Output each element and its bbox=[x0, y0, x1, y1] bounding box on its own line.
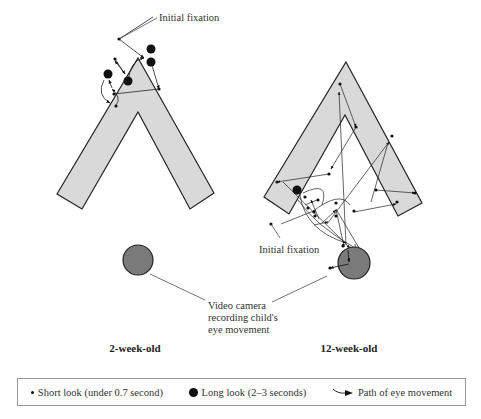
camera-label-line-1: Video camera bbox=[208, 300, 266, 311]
eye-movement-diagram: Initial fixation 2-week-old bbox=[0, 0, 481, 419]
short-look-dot-icon bbox=[31, 391, 34, 394]
camera-label-line-2: recording child's bbox=[208, 312, 278, 323]
caption-left: 2-week-old bbox=[109, 342, 160, 354]
legend-path-label: Path of eye movement bbox=[358, 387, 452, 398]
initial-fixation-leader-left bbox=[119, 18, 157, 39]
initial-fixation-label-right: Initial fixation bbox=[259, 244, 320, 255]
legend-short-look-label: Short look (under 0.7 second) bbox=[38, 387, 163, 398]
legend-long-look-label: Long look (2–3 seconds) bbox=[202, 387, 307, 398]
legend-short-look: Short look (under 0.7 second) bbox=[31, 387, 163, 398]
path-arrow-icon bbox=[332, 387, 354, 397]
long-look-dot-icon bbox=[189, 388, 198, 397]
camera-right bbox=[338, 247, 370, 279]
chevron-shape-right bbox=[264, 62, 422, 216]
camera-label-group: Video camera recording child's eye movem… bbox=[150, 274, 327, 335]
camera-label-line-3: eye movement bbox=[208, 324, 270, 335]
chevron-shape-left bbox=[57, 58, 214, 209]
legend-long-look: Long look (2–3 seconds) bbox=[189, 387, 307, 398]
legend: Short look (under 0.7 second) Long look … bbox=[17, 378, 466, 406]
camera-left bbox=[123, 245, 153, 275]
caption-right: 12-week-old bbox=[321, 342, 378, 354]
initial-fixation-label-left: Initial fixation bbox=[159, 12, 220, 23]
initial-fixation-leader-right bbox=[271, 224, 280, 238]
legend-path: Path of eye movement bbox=[332, 387, 452, 398]
left-panel: Initial fixation 2-week-old bbox=[57, 12, 220, 354]
right-panel: Initial fixation 12-week-old bbox=[259, 62, 422, 354]
